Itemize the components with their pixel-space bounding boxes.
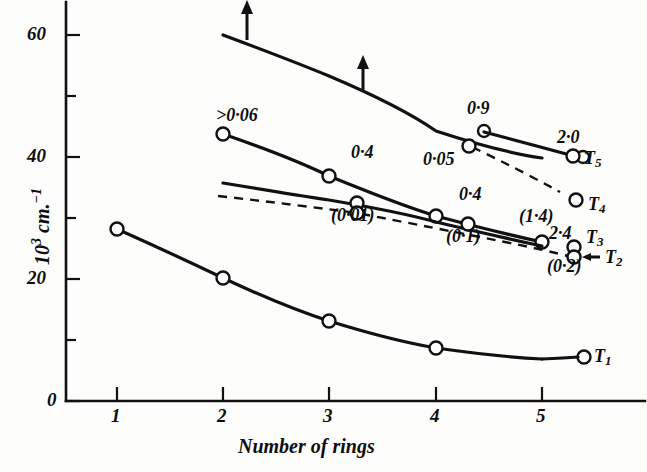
series-T6-line <box>223 35 542 158</box>
series-label-T2: T2 <box>605 248 622 269</box>
x-tick-label-4: 4 <box>430 406 440 425</box>
series-label-T3: T3 <box>586 228 603 249</box>
y-tick-label-60: 60 <box>27 24 46 43</box>
series-T1-point-ring1 <box>111 223 124 236</box>
annotation-0-4-upper: 0·4 <box>351 143 374 161</box>
y-tick-label-40: 40 <box>27 146 46 165</box>
series-label-T2-sub: 2 <box>616 254 622 269</box>
series-T6-uparrow-ring2-head <box>241 0 253 14</box>
series-T1-point-ring4 <box>430 342 443 355</box>
series-T4-point-ring4 <box>463 140 476 153</box>
annotation-0-2: (0·2) <box>547 257 582 275</box>
y-axis-title-unit-exponent: −1 <box>29 188 44 203</box>
y-axis-title-unit: cm. <box>31 204 53 233</box>
series-label-T1-letter: T <box>594 346 605 366</box>
series-T1-point-ring3 <box>323 315 336 328</box>
t2-pointer-arrow-head <box>582 253 591 261</box>
annotation-0-4-lower: 0·4 <box>459 185 482 203</box>
x-tick-label-2: 2 <box>217 406 227 425</box>
series-label-T5-sub: 5 <box>595 155 601 170</box>
annotation-0-1: (0·1) <box>446 227 481 245</box>
series-T5-line <box>223 134 542 242</box>
series-T6 <box>223 0 589 163</box>
series-T1-point-ring2 <box>217 272 230 285</box>
y-axis-title-mantissa: 10 <box>31 245 53 265</box>
x-tick-label-3: 3 <box>323 406 333 425</box>
y-axis-title: 103 cm.−1 <box>30 188 52 265</box>
series-T5-end-point <box>567 150 580 163</box>
series-T5-point-ring2 <box>217 128 230 141</box>
annotation-2-0: 2·0 <box>557 128 580 146</box>
annotation-gt-0-06: >0·06 <box>216 106 258 124</box>
series-label-T3-letter: T <box>586 227 597 247</box>
series-label-T5: T5 <box>584 149 601 170</box>
x-tick-label-5: 5 <box>536 406 546 425</box>
series-T1-line-tail <box>542 357 578 359</box>
t2-pointer-arrow <box>582 253 600 261</box>
series-label-T1-sub: 1 <box>605 353 611 368</box>
y-tick-label-0: 0 <box>47 390 57 409</box>
series-T5-point-ring3 <box>323 170 336 183</box>
x-axis-title: Number of rings <box>238 436 375 456</box>
series-label-T4-letter: T <box>588 194 599 214</box>
y-axis-title-exponent: 3 <box>29 238 44 245</box>
annotation-0-01: (0·01) <box>331 206 375 224</box>
annotation-0-9: 0·9 <box>467 99 490 117</box>
series-T5 <box>217 128 549 249</box>
annotation-0-05: 0·05 <box>423 150 455 168</box>
figure-canvas: 60 40 20 0 1 2 3 4 5 Number of rings 103… <box>0 0 647 472</box>
series-label-T4-sub: 4 <box>599 201 605 216</box>
series-T1-line <box>117 229 542 359</box>
series-label-T3-sub: 3 <box>597 234 603 249</box>
series-label-T1: T1 <box>594 347 611 368</box>
series-label-T4: T4 <box>588 195 605 216</box>
series-label-T2-letter: T <box>605 247 616 267</box>
y-tick-label-20: 20 <box>27 268 46 287</box>
series-T3-line <box>223 183 542 246</box>
series-T4-point-ring5 <box>570 194 583 207</box>
x-tick-label-1: 1 <box>111 406 121 425</box>
series-T6-uparrow-ring3-head <box>357 55 369 69</box>
annotation-2-4: 2·4 <box>549 224 572 242</box>
series-label-T5-letter: T <box>584 148 595 168</box>
